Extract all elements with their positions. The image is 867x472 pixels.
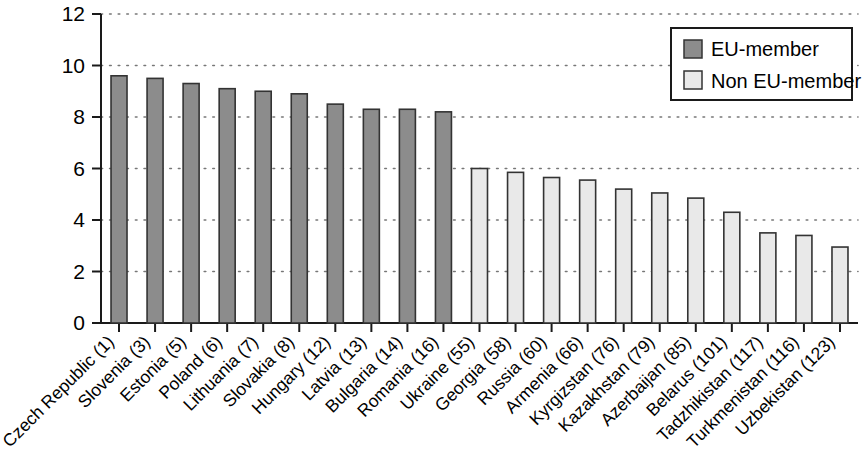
bar (580, 180, 596, 323)
legend-label-eu-member: EU-member (711, 38, 819, 60)
y-axis-tick-labels: 024681012 (62, 2, 86, 334)
bar (796, 235, 812, 323)
y-axis-ticks (92, 14, 101, 323)
bar (616, 189, 632, 323)
bar (472, 169, 488, 324)
y-tick-label: 10 (62, 54, 85, 77)
bar (544, 178, 560, 323)
bar (399, 109, 415, 323)
y-tick-label: 2 (73, 260, 85, 283)
bar (760, 233, 776, 323)
y-tick-label: 0 (73, 311, 85, 334)
bars-group (111, 76, 848, 323)
bar (219, 89, 235, 323)
bar (255, 91, 271, 323)
bar (435, 112, 451, 323)
chart-canvas: 024681012 Czech Republic (1)Slovenia (3)… (0, 0, 867, 472)
bar (724, 212, 740, 323)
bar (688, 198, 704, 323)
legend-swatch-eu-member (684, 40, 702, 58)
legend-label-non-eu-member: Non EU-member (711, 70, 861, 92)
bar (363, 109, 379, 323)
bar (327, 104, 343, 323)
legend-swatch-non-eu-member (684, 71, 702, 89)
bar (291, 94, 307, 323)
bar (508, 172, 524, 323)
x-axis-ticks (119, 323, 840, 332)
bar (111, 76, 127, 323)
bar (652, 193, 668, 323)
bar (832, 247, 848, 323)
y-tick-label: 12 (62, 2, 85, 25)
x-axis-category-labels: Czech Republic (1)Slovenia (3)Estonia (5… (0, 332, 839, 452)
bar-chart: 024681012 Czech Republic (1)Slovenia (3)… (0, 0, 867, 472)
legend: EU-member Non EU-member (671, 28, 861, 100)
y-tick-label: 4 (73, 208, 85, 231)
bar (183, 84, 199, 323)
y-tick-label: 6 (73, 157, 85, 180)
bar (147, 78, 163, 323)
y-tick-label: 8 (73, 105, 85, 128)
